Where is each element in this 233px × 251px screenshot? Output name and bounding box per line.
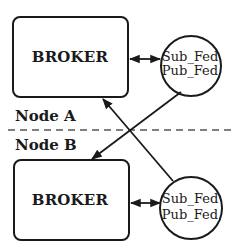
federation-diagram: BROKER Sub_Fed Pub_Fed Node A Node B BRO…	[0, 0, 233, 251]
node-b: Node B BROKER Sub_Fed Pub_Fed	[14, 136, 222, 240]
pub-fed-label-node-b: Pub_Fed	[162, 207, 218, 222]
broker-label-node-a: BROKER	[32, 48, 109, 66]
pub-fed-label-node-a: Pub_Fed	[162, 63, 218, 78]
node-a: BROKER Sub_Fed Pub_Fed Node A	[13, 17, 221, 125]
sub-fed-label-node-b: Sub_Fed	[162, 191, 218, 206]
node-b-label: Node B	[15, 136, 77, 154]
sub-fed-label-node-a: Sub_Fed	[162, 49, 218, 64]
broker-label-node-b: BROKER	[32, 191, 109, 209]
node-a-label: Node A	[15, 107, 76, 125]
